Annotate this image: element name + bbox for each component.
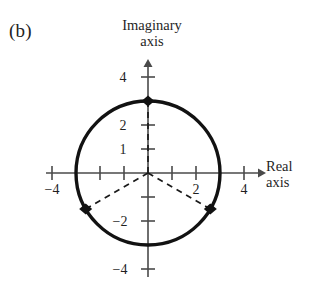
imaginary-axis-arrowhead	[144, 59, 153, 67]
real-axis-title-line2: axis	[266, 175, 314, 191]
real-axis-title: Real axis	[266, 159, 314, 190]
root-marker-3	[204, 204, 217, 215]
root-marker-2	[79, 204, 92, 215]
tick-label-y--4: −4	[107, 262, 133, 278]
tick-label-y-4: 4	[113, 70, 133, 86]
real-axis-title-line1: Real	[266, 158, 293, 174]
tick-label-x--4: −4	[39, 182, 65, 198]
imaginary-axis-title-line2: axis	[103, 34, 201, 50]
panel-label: (b)	[9, 20, 32, 42]
tick-label-y-2: 2	[113, 118, 133, 134]
tick-label-x-4: 4	[234, 182, 254, 198]
tick-label-y-1: 1	[113, 142, 133, 158]
tick-label-y--2: −2	[107, 214, 133, 230]
imaginary-axis-title-line1: Imaginary	[122, 17, 182, 33]
radius-line-root-2	[86, 173, 148, 209]
real-axis-arrowhead	[258, 169, 266, 178]
root-marker-1	[142, 96, 155, 107]
imaginary-axis-title: Imaginary axis	[103, 18, 201, 49]
tick-label-x-2: 2	[186, 182, 206, 198]
complex-plane-figure: (b) Imaginary axis Real axis 4 2 1 −2 −4…	[0, 0, 315, 287]
